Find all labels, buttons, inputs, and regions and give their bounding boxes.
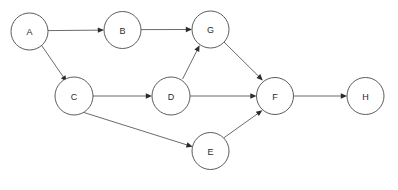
graph-node-f[interactable]: F (257, 78, 294, 115)
edge-line (183, 50, 198, 79)
edge-line (224, 42, 259, 77)
node-label: G (207, 25, 214, 35)
node-label: H (362, 92, 369, 102)
edge-f-to-h (294, 93, 348, 98)
node-label: F (272, 92, 278, 102)
graph-node-a[interactable]: A (11, 13, 48, 50)
node-label: D (168, 92, 175, 102)
arrowhead-icon (341, 93, 347, 98)
node-label: C (71, 92, 78, 102)
arrowhead-icon (98, 27, 104, 32)
edge-e-to-f (224, 110, 263, 138)
edge-a-to-b (48, 27, 104, 32)
edge-g-to-f (224, 42, 263, 80)
graph-node-h[interactable]: H (347, 78, 384, 115)
node-label: E (207, 147, 213, 157)
edge-line (42, 45, 64, 77)
arrowhead-icon (186, 27, 192, 32)
directed-graph-canvas: ABGCDFHE (0, 0, 398, 190)
graph-node-d[interactable]: D (152, 77, 190, 115)
edge-d-to-f (190, 93, 257, 98)
graph-node-e[interactable]: E (192, 133, 229, 170)
arrowhead-icon (146, 93, 152, 98)
edge-line (224, 113, 258, 137)
edge-d-to-g (183, 45, 200, 79)
graph-node-c[interactable]: C (55, 77, 93, 115)
arrowhead-icon (256, 110, 263, 116)
node-label: B (119, 26, 125, 36)
node-label: A (26, 27, 32, 37)
edge-a-to-c (42, 45, 67, 82)
graph-node-b[interactable]: B (104, 12, 141, 49)
arrowhead-icon (250, 93, 256, 98)
edge-line (81, 112, 188, 146)
node-layer: ABGCDFHE (11, 11, 384, 170)
arrowhead-icon (186, 142, 193, 147)
edge-b-to-g (141, 27, 192, 32)
edge-c-to-e (81, 112, 193, 148)
graph-node-g[interactable]: G (192, 11, 229, 48)
edge-c-to-d (93, 93, 152, 98)
